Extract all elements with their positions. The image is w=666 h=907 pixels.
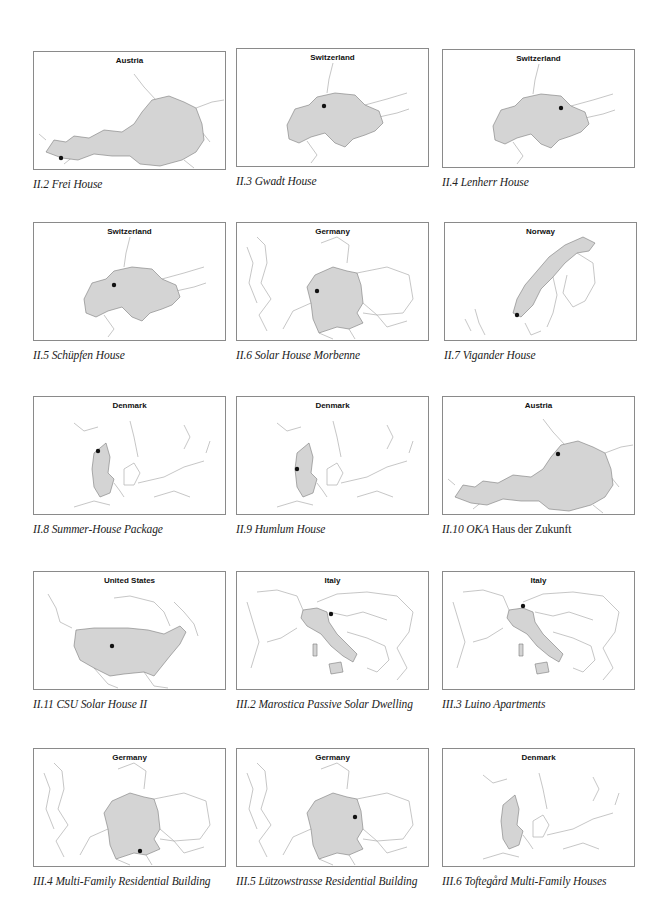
neighbor-border-line [48, 594, 72, 628]
neighbor-border-line [124, 237, 130, 267]
figure-caption: II.5 Schüpfen House [33, 349, 233, 361]
map-frame: United States [33, 571, 226, 690]
map-country-title: United States [34, 576, 225, 585]
location-marker [59, 156, 63, 160]
map-country-title: Germany [237, 753, 428, 762]
map-frame: Denmark [442, 748, 635, 867]
neighbor-border-line [196, 100, 224, 108]
figure-caption: III.6 Toftegård Multi-Family Houses [442, 875, 642, 887]
neighbor-border-line [379, 109, 409, 117]
country-map [34, 572, 225, 689]
country-shape [92, 443, 114, 497]
location-marker [315, 289, 319, 293]
caption-italic: II.5 Schüpfen House [33, 349, 125, 361]
neighbor-border-line [365, 93, 407, 105]
neighbor-border-line [483, 853, 519, 859]
map-frame: Germany [33, 748, 226, 867]
neighbor-border-line [409, 441, 413, 453]
country-shape [507, 608, 563, 674]
country-map [237, 397, 428, 514]
neighbor-border-line [247, 773, 257, 829]
figure-caption: II.6 Solar House Morbenne [236, 349, 436, 361]
location-marker [556, 452, 560, 456]
figure-caption: II.9 Humlum House [236, 523, 436, 535]
caption-roman: Haus der Zukunft [489, 523, 571, 535]
location-marker [295, 467, 299, 471]
neighbor-border-line [321, 237, 349, 263]
map-country-title: Italy [443, 576, 634, 585]
neighbor-border-line [176, 283, 206, 291]
location-marker [559, 106, 563, 110]
cropped-running-header [0, 0, 666, 6]
map-country-title: Austria [443, 401, 634, 410]
figure-cell: Switzerland II.3 Gwadt House [236, 48, 436, 187]
neighbor-border-line [267, 628, 297, 642]
neighbor-border-line [257, 763, 271, 857]
neighbor-border-line [317, 483, 327, 497]
figure-cell: Germany III.4 Multi-Family Residential B… [33, 748, 233, 887]
neighbor-border-line [585, 110, 615, 118]
figure-cell: Norway II.7 Vigander House [444, 222, 644, 361]
neighbor-border-line [563, 253, 595, 307]
neighbor-border-line [329, 612, 387, 620]
map-frame: Germany [236, 748, 429, 867]
figure-caption: II.3 Gwadt House [236, 175, 436, 187]
caption-italic: III.2 Marostica Passive Solar Dwelling [236, 698, 413, 710]
figure-caption: III.4 Multi-Family Residential Building [33, 875, 233, 887]
map-frame: Austria [33, 51, 226, 170]
figure-cell: Austria II.10 OKA Haus der Zukunft [442, 396, 642, 535]
country-shape [501, 795, 523, 849]
neighbor-border-line [116, 859, 130, 865]
figure-cell: Italy III.2 Marostica Passive Solar Dwel… [236, 571, 436, 710]
country-map [443, 572, 634, 689]
neighbor-border-line [363, 313, 407, 327]
neighbor-border-line [134, 74, 156, 100]
map-country-title: Germany [237, 227, 428, 236]
location-marker [515, 313, 519, 317]
neighbor-border-line [144, 672, 168, 688]
map-frame: Germany [236, 222, 429, 341]
neighbor-border-line [247, 602, 259, 668]
caption-italic: III.3 Luino Apartments [442, 698, 545, 710]
country-map [443, 397, 634, 514]
neighbor-border-line [593, 777, 599, 801]
neighbor-border-line [146, 855, 152, 865]
figure-caption: III.5 Lützowstrasse Residential Building [236, 875, 436, 887]
country-shape [301, 608, 357, 674]
figure-cell: United States II.11 CSU Solar House II [33, 571, 233, 710]
caption-italic: II.6 Solar House Morbenne [236, 349, 360, 361]
neighbor-border-line [533, 815, 549, 837]
neighbor-border-line [605, 445, 633, 453]
country-map [443, 749, 634, 866]
neighbor-border-line [453, 602, 465, 668]
neighbor-border-line [114, 483, 124, 497]
neighbor-border-line [39, 134, 46, 140]
caption-italic: III.5 Lützowstrasse Residential Building [236, 875, 417, 887]
neighbor-border-line [114, 596, 170, 626]
country-shape [493, 94, 589, 148]
neighbor-border-line [533, 64, 539, 94]
map-frame: Switzerland [33, 222, 226, 341]
caption-italic: II.9 Humlum House [236, 523, 325, 535]
caption-italic: II.2 Frei House [33, 178, 102, 190]
neighbor-border-line [321, 763, 349, 789]
neighbor-border-line [74, 501, 110, 507]
figure-cell: Switzerland II.5 Schüpfen House [33, 222, 233, 361]
figure-caption: II.4 Lenherr House [442, 176, 642, 188]
neighbor-border-line [448, 479, 455, 485]
map-country-title: Italy [237, 576, 428, 585]
neighbor-border-line [473, 628, 503, 642]
neighbor-border-line [283, 829, 311, 855]
neighbor-border-line [184, 160, 194, 168]
neighbor-border-line [475, 309, 485, 335]
country-shape [307, 793, 363, 859]
neighbor-border-line [357, 491, 393, 497]
location-marker [112, 283, 116, 287]
neighbor-border-line [160, 839, 204, 853]
caption-italic: II.3 Gwadt House [236, 175, 317, 187]
location-marker [96, 449, 100, 453]
neighbor-border-line [257, 590, 303, 610]
neighbor-border-line [206, 441, 210, 453]
country-shape [46, 96, 204, 166]
figure-caption: II.7 Vigander House [444, 349, 644, 361]
